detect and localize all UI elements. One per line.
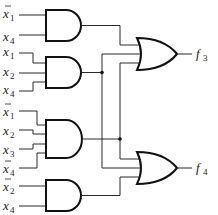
logic-circuit-diagram: x 1 x 4 x 1 x 2 x 4 x 1 x 2 x 3 x 4 x 2 … — [0, 0, 218, 215]
and-gate-3 — [46, 120, 82, 158]
and-gate-4 — [46, 180, 81, 211]
input-label-and3-c: x 3 — [2, 142, 15, 159]
svg-text:1: 1 — [10, 51, 15, 61]
and-gate-2 — [46, 57, 81, 88]
input-label-and2-b: x 2 — [2, 64, 15, 81]
junction-dot-and3 — [118, 137, 122, 141]
svg-text:3: 3 — [203, 53, 208, 63]
svg-text:x: x — [2, 142, 9, 157]
input-label-and2-a: x 1 — [2, 44, 15, 61]
svg-text:2: 2 — [10, 130, 15, 140]
svg-text:4: 4 — [10, 168, 15, 178]
svg-text:x: x — [2, 29, 9, 44]
and-gate-1 — [46, 10, 81, 41]
input-label-and1-a: x 1 — [2, 6, 15, 23]
svg-text:1: 1 — [10, 13, 15, 23]
input-label-and4-b: x 4 — [2, 198, 15, 215]
svg-text:1: 1 — [10, 111, 15, 121]
or-gate-1 — [137, 38, 177, 70]
svg-text:x: x — [2, 44, 9, 59]
internal-wires — [81, 26, 141, 196]
svg-text:x: x — [2, 161, 9, 176]
svg-text:4: 4 — [203, 167, 208, 177]
svg-text:x: x — [2, 179, 9, 194]
svg-text:x: x — [2, 6, 9, 21]
svg-text:3: 3 — [10, 149, 15, 159]
output-label-f3: f 3 — [196, 46, 208, 63]
input-wires — [19, 15, 46, 206]
input-label-and3-a: x 1 — [2, 104, 15, 121]
svg-text:x: x — [2, 82, 9, 97]
input-label-and3-b: x 2 — [2, 123, 15, 140]
svg-text:4: 4 — [10, 205, 15, 215]
svg-text:f: f — [196, 46, 202, 61]
input-label-and3-d: x 4 — [2, 161, 15, 178]
svg-text:2: 2 — [10, 186, 15, 196]
svg-text:2: 2 — [10, 71, 15, 81]
circuit-svg: x 1 x 4 x 1 x 2 x 4 x 1 x 2 x 3 x 4 x 2 … — [0, 0, 218, 215]
svg-text:f: f — [196, 160, 202, 175]
svg-text:4: 4 — [10, 89, 15, 99]
svg-text:x: x — [2, 198, 9, 213]
svg-text:x: x — [2, 64, 9, 79]
svg-text:x: x — [2, 104, 9, 119]
output-label-f4: f 4 — [196, 160, 208, 177]
svg-text:x: x — [2, 123, 9, 138]
svg-text:4: 4 — [10, 36, 15, 46]
input-label-and2-c: x 4 — [2, 82, 15, 99]
junction-dot-and2 — [100, 71, 104, 75]
input-label-and4-a: x 2 — [2, 179, 15, 196]
or-gate-2 — [137, 152, 177, 184]
